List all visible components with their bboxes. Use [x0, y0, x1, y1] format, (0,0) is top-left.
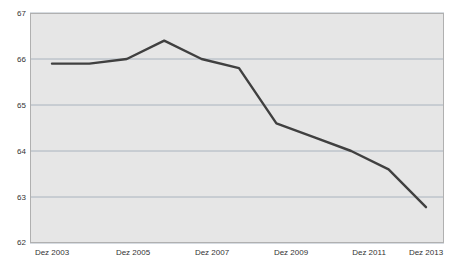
- ytick-label-1: 66: [17, 55, 26, 64]
- xtick-label-2: Dez 2007: [195, 248, 230, 257]
- line-chart: 67 66 65 64 63 62 Dez 2003 Dez 2005 Dez …: [0, 0, 458, 265]
- xtick-label-5: Dez 2013: [409, 248, 444, 257]
- ytick-label-3: 64: [17, 147, 26, 156]
- ytick-label-0: 67: [17, 9, 26, 18]
- x-axis-tick-labels: Dez 2003 Dez 2005 Dez 2007 Dez 2009 Dez …: [35, 248, 444, 257]
- y-axis-tick-labels: 67 66 65 64 63 62: [17, 9, 26, 247]
- xtick-label-1: Dez 2005: [116, 248, 151, 257]
- chart-canvas: 67 66 65 64 63 62 Dez 2003 Dez 2005 Dez …: [0, 0, 458, 265]
- ytick-label-2: 65: [17, 101, 26, 110]
- xtick-label-0: Dez 2003: [35, 248, 70, 257]
- xtick-label-3: Dez 2009: [274, 248, 309, 257]
- ytick-label-5: 62: [17, 238, 26, 247]
- ytick-label-4: 63: [17, 193, 26, 202]
- plot-area-background: [30, 13, 444, 243]
- xtick-label-4: Dez 2011: [352, 248, 386, 257]
